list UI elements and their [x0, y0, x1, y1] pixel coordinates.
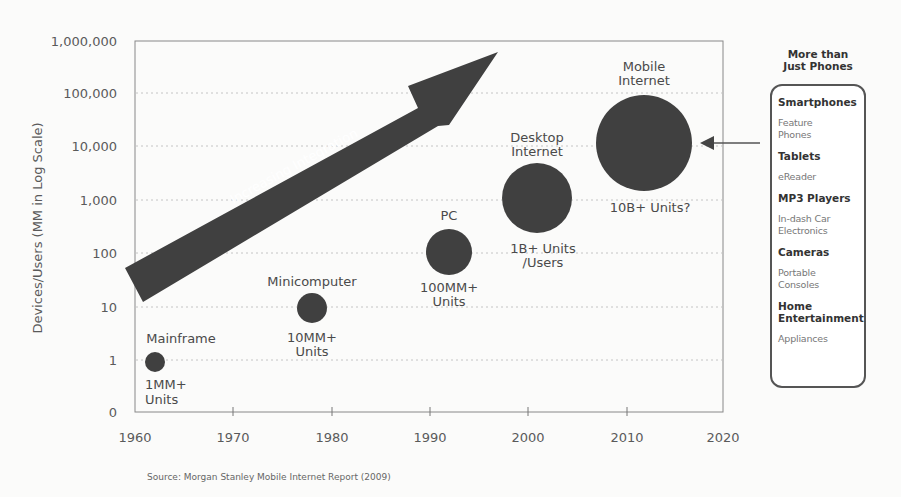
bubble-mainframe: Mainframe 1MM+ Units: [145, 331, 216, 407]
bubble-pc: PC 100MM+ Units: [420, 208, 478, 309]
ytick-label: 10,000: [72, 139, 118, 154]
device-item: Cameras: [778, 246, 864, 258]
bubble-units: 10B+ Units?: [610, 200, 691, 215]
bubble-name: Internet: [618, 73, 670, 88]
y-axis-title: Devices/Users (MM in Log Scale): [30, 122, 45, 333]
bubble-minicomputer: Minicomputer 10MM+ Units: [267, 274, 357, 359]
device-item: Appliances: [778, 333, 864, 345]
bubble-circle: [502, 163, 572, 233]
bubble-name: Mobile: [623, 59, 666, 74]
ytick-label: 100: [92, 246, 117, 261]
bubble-name: Internet: [511, 144, 563, 159]
sidebar-title: More than Just Phones: [768, 48, 868, 72]
device-list-box: Smartphones Feature Phones Tablets eRead…: [770, 84, 866, 388]
x-axis-labels: 1960 1970 1980 1990 2000 2010 2020: [118, 430, 739, 445]
device-item: MP3 Players: [778, 192, 864, 204]
device-item: Smartphones: [778, 96, 864, 108]
bubble-units: /Users: [523, 255, 564, 270]
device-item: In-dash Car Electronics: [778, 213, 848, 237]
xtick-label: 1990: [413, 430, 446, 445]
bubble-name: Minicomputer: [267, 274, 357, 289]
device-item: Portable Consoles: [778, 267, 838, 291]
device-item: Home Entertainment: [778, 300, 838, 324]
bubble-circle: [297, 293, 327, 323]
bubble-units: 1B+ Units: [510, 241, 576, 256]
xtick-label: 2000: [511, 430, 544, 445]
sidebar-title-line: Just Phones: [768, 60, 868, 72]
bubble-units: Units: [295, 344, 328, 359]
bubble-circle: [426, 229, 472, 275]
device-item: Feature Phones: [778, 117, 830, 141]
source-caption: Source: Morgan Stanley Mobile Internet R…: [147, 472, 391, 482]
ytick-label: 1,000: [80, 193, 117, 208]
bubble-mobile-internet: Mobile Internet 10B+ Units?: [596, 59, 692, 215]
xtick-label: 2020: [706, 430, 739, 445]
device-item: Tablets: [778, 150, 864, 162]
bubble-circle: [145, 352, 165, 372]
ytick-label: 100,000: [63, 86, 117, 101]
arrowhead-left-icon: [700, 136, 714, 150]
bubble-units: Units: [145, 392, 178, 407]
sidebar-title-line: More than: [768, 48, 868, 60]
bubble-units: 10MM+: [287, 330, 337, 345]
bubble-units: 1MM+: [145, 377, 187, 392]
bubble-name: Desktop: [510, 130, 564, 145]
bubble-desktop-internet: Desktop Internet 1B+ Units /Users: [502, 130, 576, 270]
xtick-label: 1980: [315, 430, 348, 445]
ytick-label: 10: [100, 300, 117, 315]
ytick-label: 0: [109, 405, 117, 420]
xtick-label: 1960: [118, 430, 151, 445]
bubble-chart: 1,000,000 100,000 10,000 1,000 100 10 1 …: [0, 0, 760, 470]
bubble-units: 100MM+: [420, 280, 478, 295]
bubble-circle: [596, 95, 692, 191]
bubble-name: PC: [441, 208, 458, 223]
callout-arrow: [700, 136, 760, 150]
xtick-label: 2010: [610, 430, 643, 445]
bubble-name: Mainframe: [146, 331, 216, 346]
y-axis-labels: 1,000,000 100,000 10,000 1,000 100 10 1 …: [51, 34, 117, 420]
ytick-label: 1: [109, 353, 117, 368]
bubble-units: Units: [432, 294, 465, 309]
device-item: eReader: [778, 171, 864, 183]
xtick-label: 1970: [216, 430, 249, 445]
ytick-label: 1,000,000: [51, 34, 117, 49]
